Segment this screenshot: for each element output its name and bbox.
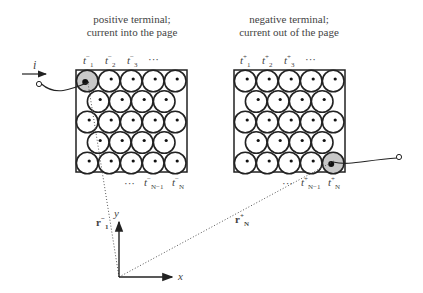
label-ellipsis: ··· [148, 53, 159, 65]
strand-circle [234, 70, 256, 92]
strand-center-dot [176, 77, 179, 80]
strand-circle [311, 91, 333, 113]
strand-circle [278, 152, 300, 174]
positive-terminal-bundle [76, 70, 187, 174]
strand-center-dot [165, 98, 168, 101]
strand-circle [256, 111, 278, 133]
strand-center-dot [246, 77, 249, 80]
strand-center-dot [268, 118, 271, 121]
strand-circle [98, 152, 120, 174]
strand-center-dot [110, 77, 113, 80]
title-line: current out of the page [236, 26, 342, 39]
diagram-canvas [0, 0, 423, 293]
strand-center-dot [279, 98, 282, 101]
strand-center-dot [132, 77, 135, 80]
strand-center-dot [121, 98, 124, 101]
strand-circle [98, 111, 120, 133]
label-tN-minus: t−N [172, 175, 184, 191]
strand-center-dot [301, 139, 304, 142]
current-label: i [33, 58, 36, 73]
strand-center-dot [312, 159, 315, 162]
strand-circle [164, 111, 186, 133]
strand-center-dot [257, 139, 260, 142]
label-t1-minus: t−1 [83, 53, 94, 69]
strand-center-dot [110, 118, 113, 121]
strand-circle [142, 152, 164, 174]
strand-center-dot [121, 139, 124, 142]
label-t2-plus: t+2 [262, 53, 273, 69]
strand-center-dot [154, 159, 157, 162]
label-t3-minus: t−3 [127, 53, 138, 69]
strand-center-dot [246, 118, 249, 121]
strand-center-dot [323, 139, 326, 142]
y-axis-label: y [114, 207, 119, 219]
strand-center-dot [132, 159, 135, 162]
strand-circle [164, 152, 186, 174]
label-ellipsis: ··· [282, 177, 293, 189]
strand-center-dot [279, 139, 282, 142]
strand-circle [245, 91, 267, 113]
strand-center-dot [312, 118, 315, 121]
strand-center-dot [334, 118, 337, 121]
strand-circle [109, 132, 131, 154]
strand-center-dot [176, 118, 179, 121]
label-ellipsis: ··· [124, 177, 135, 189]
strand-circle [322, 70, 344, 92]
label-t3-plus: t+3 [284, 53, 295, 69]
strand-circle [278, 70, 300, 92]
strand-circle [289, 132, 311, 154]
vector-r1-label: r−1 [96, 215, 108, 231]
strand-circle [311, 132, 333, 154]
negative-terminal-title: negative terminal; current out of the pa… [236, 13, 342, 39]
strand-circle [142, 111, 164, 133]
strand-center-dot [290, 77, 293, 80]
strand-circle [300, 152, 322, 174]
strand-circle [131, 132, 153, 154]
strand-center-dot [290, 118, 293, 121]
strand-circle [300, 111, 322, 133]
strand-circle [98, 70, 120, 92]
strand-circle [153, 132, 175, 154]
strand-circle [76, 111, 98, 133]
strand-center-dot [323, 98, 326, 101]
vector-rN-label: r+N [235, 212, 249, 228]
strand-center-dot [154, 118, 157, 121]
label-tN-plus: t+N [328, 175, 340, 191]
negative-terminal-bundle [234, 70, 345, 174]
strand-circle [87, 132, 109, 154]
strand-circle [289, 91, 311, 113]
label-t1-plus: t+1 [240, 53, 251, 69]
label-tN-1-plus: t+N−1 [301, 175, 321, 191]
strand-center-dot [334, 77, 337, 80]
strand-circle [109, 91, 131, 113]
strand-circle [278, 111, 300, 133]
x-axis-label: x [178, 270, 183, 282]
strand-center-dot [88, 118, 91, 121]
positive-terminal-title: positive terminal; current into the page [82, 13, 182, 39]
strand-circle [267, 132, 289, 154]
strand-circle [300, 70, 322, 92]
strand-center-dot [132, 118, 135, 121]
title-line: current into the page [82, 26, 182, 39]
strand-center-dot [176, 159, 179, 162]
strand-circle [256, 152, 278, 174]
strand-circle [120, 70, 142, 92]
strand-circle [76, 152, 98, 174]
strand-circle [131, 91, 153, 113]
strand-center-dot [154, 77, 157, 80]
strand-center-dot [88, 159, 91, 162]
input-terminal-node [36, 81, 41, 86]
strand-circle [267, 91, 289, 113]
label-ellipsis: ··· [305, 53, 316, 65]
strand-center-dot [257, 98, 260, 101]
strand-center-dot [110, 159, 113, 162]
strand-circle [164, 70, 186, 92]
strand-circle [153, 91, 175, 113]
strand-center-dot [99, 98, 102, 101]
title-line: positive terminal; [82, 13, 182, 26]
strand-center-dot [143, 139, 146, 142]
strand-circle [120, 111, 142, 133]
strand-center-dot [99, 139, 102, 142]
strand-circle [322, 111, 344, 133]
output-terminal-node [396, 154, 401, 159]
